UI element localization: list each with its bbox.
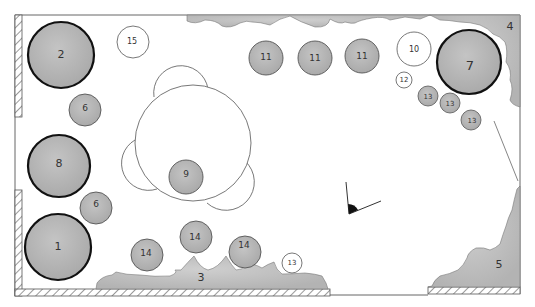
wall-left-top [15,15,22,117]
bed-4-label: 4 [507,20,514,33]
svg-text:13: 13 [424,93,433,101]
top-border-bed [187,15,430,27]
plant-11: 11 [249,41,283,75]
wall-bottom-right [428,287,520,294]
plant-14: 14 [229,236,261,268]
plant-13: 13 [440,93,460,113]
plant-8: 8 [28,135,90,197]
svg-text:9: 9 [183,169,189,179]
svg-text:1: 1 [55,240,62,253]
plant-6: 6 [69,94,101,126]
viewpoint-marker-icon [346,182,381,214]
plant-14: 14 [180,221,212,253]
svg-text:6: 6 [82,103,88,113]
plant-9: 9 [169,160,203,194]
svg-text:8: 8 [56,157,63,170]
svg-text:12: 12 [400,76,409,84]
svg-text:2: 2 [58,48,65,61]
svg-text:13: 13 [288,259,297,267]
garden-plan: 2 8 1 7 6 6 9 11 [0,0,535,307]
plants: 2 8 1 7 6 6 9 11 [25,22,501,280]
plant-15: 15 [117,26,149,58]
wall-left-bottom [15,190,22,296]
plant-10: 10 [397,32,431,66]
svg-text:7: 7 [466,58,474,73]
plant-1: 1 [25,214,91,280]
svg-text:14: 14 [140,248,152,258]
svg-text:10: 10 [409,45,419,54]
plant-7: 7 [437,30,501,94]
svg-text:14: 14 [189,232,201,242]
plant-12: 12 [396,72,412,88]
bed-5-shape [428,186,520,287]
plant-11: 11 [345,39,379,73]
plant-13: 13 [418,86,438,106]
svg-text:11: 11 [356,51,367,61]
svg-text:13: 13 [446,100,455,108]
svg-text:13: 13 [468,117,477,125]
bed-5-label: 5 [496,258,503,271]
svg-text:14: 14 [238,240,250,250]
plant-13: 13 [461,110,481,130]
svg-text:11: 11 [260,52,271,62]
plant-2: 2 [28,22,94,88]
plant-11: 11 [298,41,332,75]
plant-14: 14 [131,239,163,271]
sight-line [494,121,518,181]
svg-text:15: 15 [127,37,137,46]
wall-bottom-left [15,289,330,296]
plant-6: 6 [80,192,112,224]
bed-3-label: 3 [198,271,205,284]
plant-13: 13 [282,253,302,273]
svg-text:6: 6 [93,199,99,209]
svg-text:11: 11 [309,53,320,63]
